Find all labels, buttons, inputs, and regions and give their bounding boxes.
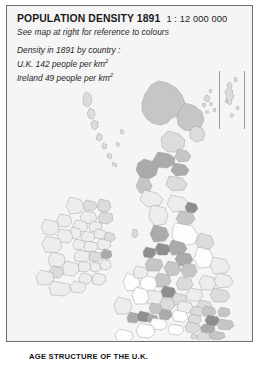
map-subtitle: See map at right for reference to colour…: [17, 27, 249, 37]
density-uk-label: U.K. 142 people per km: [17, 59, 105, 69]
map-scale: 1 : 12 000 000: [166, 14, 227, 24]
map-header: POPULATION DENSITY 1891 1 : 12 000 000 S…: [17, 13, 249, 84]
scotland-regions: [136, 81, 205, 207]
density-ireland-label: Ireland 49 people per km: [17, 73, 110, 83]
density-note-heading: Density in 1891 by country :: [17, 45, 249, 56]
page-title: POPULATION DENSITY 1891: [17, 13, 160, 24]
inset-orkney: [202, 89, 216, 114]
density-ireland: Ireland 49 people per km2: [17, 70, 249, 84]
population-density-map-panel: POPULATION DENSITY 1891 1 : 12 000 000 S…: [6, 5, 253, 342]
screenshot-root: POPULATION DENSITY 1891 1 : 12 000 000 S…: [0, 0, 259, 371]
next-section-caption: AGE STRUCTURE OF THE U.K.: [29, 352, 148, 361]
density-note: Density in 1891 by country : U.K. 142 pe…: [17, 45, 249, 84]
region-outer-hebrides: [83, 92, 124, 167]
density-ireland-exponent: 2: [110, 72, 113, 78]
map-panel-inner: POPULATION DENSITY 1891 1 : 12 000 000 S…: [8, 7, 251, 340]
ireland-regions: [36, 197, 138, 296]
density-uk: U.K. 142 people per km2: [17, 56, 249, 70]
northern-england-regions: [143, 195, 214, 277]
density-uk-exponent: 2: [105, 58, 108, 64]
title-row: POPULATION DENSITY 1891 1 : 12 000 000: [17, 13, 249, 24]
